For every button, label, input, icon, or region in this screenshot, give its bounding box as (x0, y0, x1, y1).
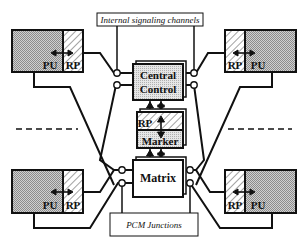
unit-bottom-right: RP PU (225, 170, 296, 213)
internal-signaling-label: Internal signaling channels (100, 15, 200, 25)
central-control-line1: Central (140, 69, 176, 81)
matrix-label: Matrix (140, 171, 176, 185)
unit-bottom-left: PU RP (12, 170, 83, 213)
central-control-line2: Control (140, 83, 176, 95)
pcm-junctions-label: PCM Junctions (125, 220, 182, 230)
unit-top-right: RP PU (225, 30, 296, 72)
central-control-block: Central Control (133, 61, 186, 100)
marker-rp-label: RP (138, 117, 153, 129)
rp-label: RP (228, 59, 243, 71)
pu-label: PU (43, 59, 58, 71)
rp-label: RP (228, 199, 243, 211)
matrix-block: Matrix (133, 157, 186, 197)
internal-signaling-channels-box: Internal signaling channels (97, 13, 203, 26)
rp-label: RP (66, 199, 81, 211)
exchange-diagram: Internal signaling channels PCM Junction… (0, 0, 304, 245)
pu-label: PU (251, 199, 266, 211)
pu-label: PU (43, 199, 58, 211)
rp-label: RP (66, 59, 81, 71)
marker-block: RP Marker (137, 109, 186, 148)
pcm-junctions-box: PCM Junctions (110, 213, 198, 236)
unit-top-left: PU RP (12, 30, 83, 72)
pu-label: PU (251, 59, 266, 71)
